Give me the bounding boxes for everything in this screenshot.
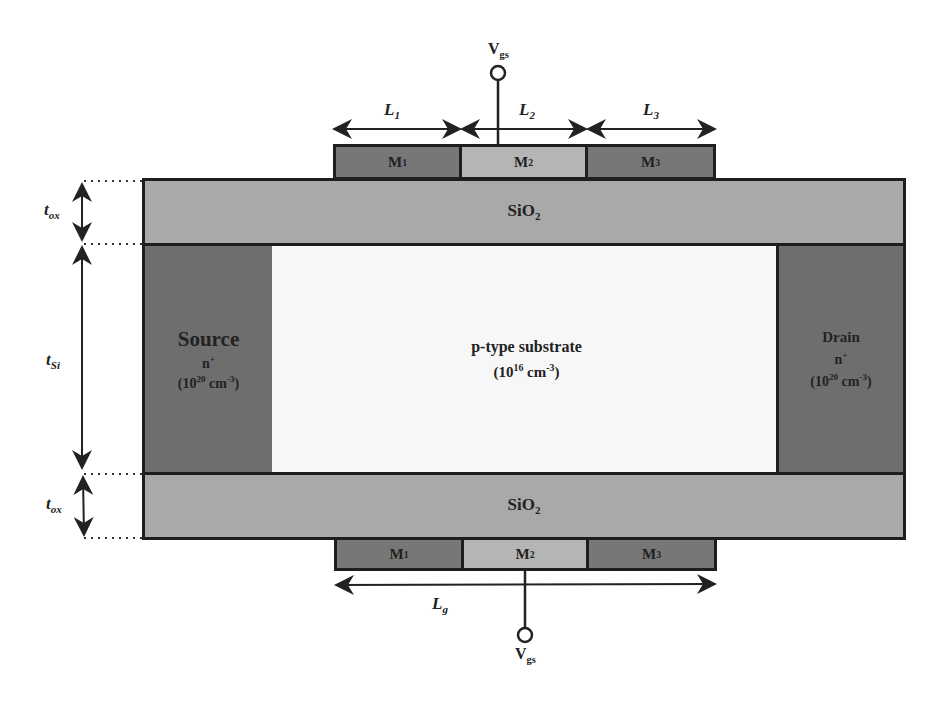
substrate-region: p-type substrate (1016 cm-3) [272, 243, 781, 476]
drain-type: n+ [835, 350, 848, 368]
bottom-gate-m2: M2 [461, 537, 589, 571]
top-vgs-label: Vgs [488, 40, 509, 60]
bottom-gate-terminal [518, 570, 532, 642]
top-gate-m2: M2 [459, 144, 588, 180]
drain-region: Drain n+ (1020 cm-3) [776, 243, 906, 476]
length-label-l3: L3 [643, 100, 659, 121]
drain-doping: (1020 cm-3) [810, 372, 871, 390]
tox-bottom-label: tox [46, 494, 62, 515]
source-region: Source n+ (1020 cm-3) [142, 243, 275, 476]
bottom-oxide-layer: SiO2 [142, 472, 906, 540]
source-doping: (1020 cm-3) [178, 374, 239, 392]
bottom-gate-m3: M3 [586, 537, 717, 571]
tsi-label: tSi [46, 350, 60, 371]
tox-top-label: tox [44, 200, 60, 221]
length-label-lg: Lg [432, 594, 448, 615]
bottom-vgs-label: Vgs [515, 645, 536, 665]
length-label-l2: L2 [519, 100, 535, 121]
dimension-arrow-tox-bottom [83, 477, 84, 535]
substrate-doping: (1016 cm-3) [494, 362, 560, 381]
top-gate-m3: M3 [585, 144, 716, 180]
length-label-l1: L1 [384, 100, 400, 121]
source-type: n+ [202, 354, 215, 372]
substrate-title: p-type substrate [471, 338, 582, 356]
top-gate-terminal [491, 66, 505, 146]
drain-title: Drain [822, 329, 860, 346]
source-title: Source [178, 327, 239, 352]
extension-lines [84, 181, 142, 538]
top-gate-m1: M1 [333, 144, 462, 180]
bottom-gate-m1: M1 [334, 537, 464, 571]
top-oxide-layer: SiO2 [142, 178, 906, 246]
